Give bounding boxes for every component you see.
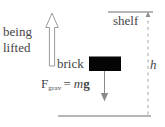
label-being: being [3, 25, 32, 38]
formula-mass: m [74, 76, 83, 91]
brick-body [89, 57, 121, 72]
gravity-arrow-icon [101, 71, 108, 102]
gravity-force-formula: Fgrav=mg [41, 76, 90, 92]
formula-gravity: g [83, 76, 90, 91]
label-lifted: lifted [3, 41, 30, 54]
label-shelf: shelf [113, 14, 138, 27]
label-height: h [150, 58, 157, 71]
formula-equals: = [63, 76, 70, 91]
label-brick: brick [57, 57, 84, 70]
formula-subscript: grav [48, 84, 61, 92]
physics-diagram: being lifted shelf brick h Fgrav=mg [0, 0, 165, 127]
